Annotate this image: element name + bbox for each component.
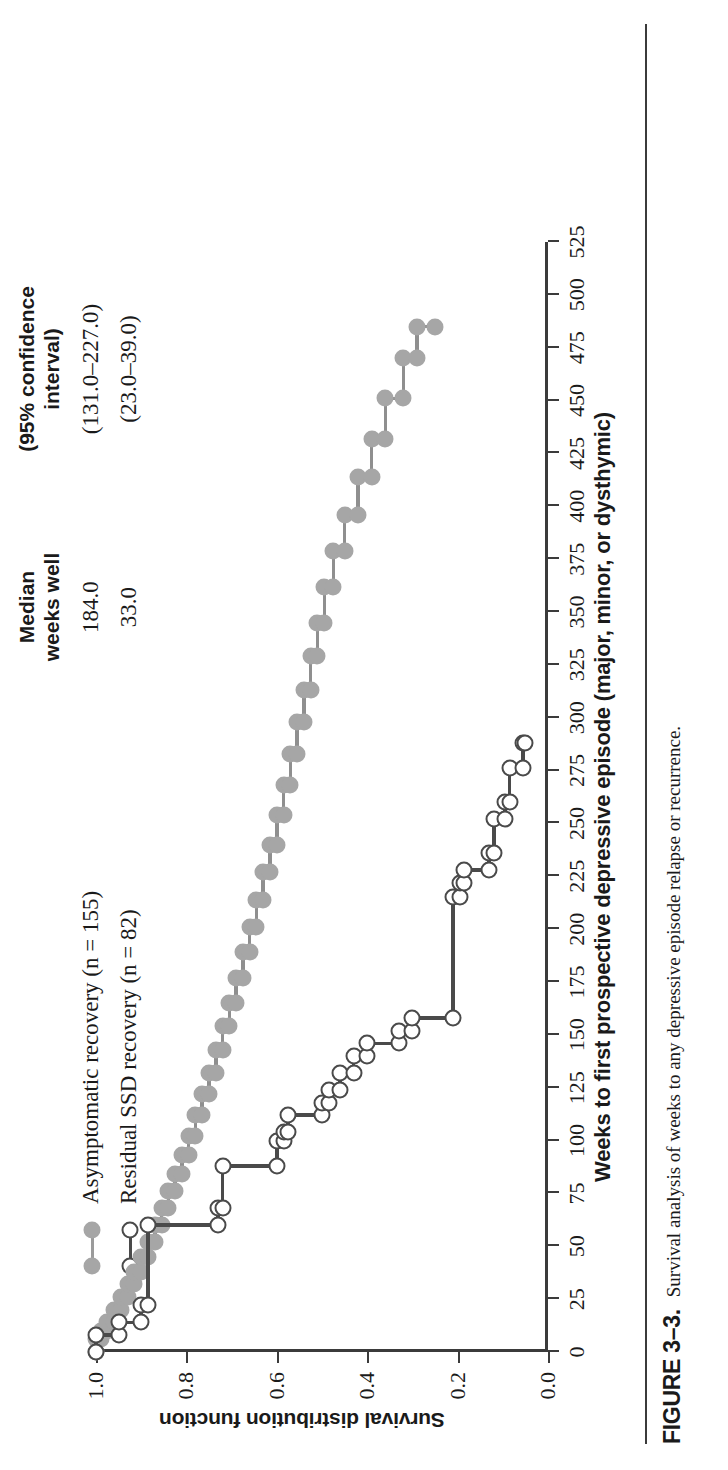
data-point — [336, 542, 353, 559]
legend-header-ci-line1: (95% confidence — [14, 234, 39, 504]
x-tick-label: 75 — [564, 1182, 590, 1204]
data-point — [363, 468, 380, 485]
x-axis-title: Weeks to first prospective depressive ep… — [590, 242, 616, 1352]
data-point — [207, 1064, 224, 1081]
x-tick — [548, 1139, 559, 1141]
data-point — [517, 735, 534, 752]
data-point — [255, 891, 272, 908]
x-tick-label: 500 — [564, 278, 590, 311]
data-point — [445, 1009, 462, 1026]
x-tick-label: 225 — [564, 860, 590, 893]
data-point — [167, 1183, 184, 1200]
x-axis-line — [545, 242, 548, 1352]
x-tick — [548, 1297, 559, 1299]
y-tick-label: 1.0 — [83, 1372, 109, 1400]
data-point — [427, 318, 444, 335]
data-point — [133, 1314, 150, 1331]
y-tick-label: 0.8 — [173, 1372, 199, 1400]
figure-caption: FIGURE 3–3.Survival analysis of weeks to… — [660, 24, 686, 1444]
data-point — [395, 390, 412, 407]
x-tick-label: 250 — [564, 807, 590, 840]
data-point — [160, 1200, 177, 1217]
x-tick — [548, 293, 559, 295]
y-tick-label: 0.6 — [264, 1372, 290, 1400]
data-point — [316, 614, 333, 631]
data-point — [350, 506, 367, 523]
x-tick — [548, 610, 559, 612]
data-point — [408, 350, 425, 367]
x-tick-label: 450 — [564, 384, 590, 417]
data-point — [359, 1035, 376, 1052]
y-axis-line — [96, 1349, 548, 1352]
y-tick-label: 0.2 — [445, 1372, 471, 1400]
x-tick — [548, 504, 559, 506]
x-tick — [548, 1244, 559, 1246]
legend-header-median-line1: Median — [14, 532, 39, 682]
x-tick-label: 0 — [564, 1347, 590, 1358]
y-tick — [367, 1352, 369, 1363]
x-tick-label: 325 — [564, 648, 590, 681]
data-point — [201, 1086, 218, 1103]
data-point — [404, 1009, 421, 1026]
data-point — [268, 836, 285, 853]
data-point — [194, 1107, 211, 1124]
x-tick-label: 300 — [564, 701, 590, 734]
x-tick — [548, 980, 559, 982]
x-tick-label: 350 — [564, 596, 590, 629]
data-point — [88, 1327, 105, 1344]
data-point — [275, 806, 292, 823]
data-point — [248, 919, 265, 936]
x-tick-label: 100 — [564, 1124, 590, 1157]
y-tick — [277, 1352, 279, 1363]
x-tick-label: 525 — [564, 226, 590, 259]
data-point — [345, 1064, 362, 1081]
data-point — [515, 760, 532, 777]
data-point — [280, 1107, 297, 1124]
data-point — [309, 648, 326, 665]
data-point — [332, 1081, 349, 1098]
x-tick — [548, 557, 559, 559]
x-tick-label: 200 — [564, 913, 590, 946]
data-point — [280, 1124, 297, 1141]
legend-header-row: Median weeks well (95% confidence interv… — [14, 234, 76, 1274]
data-point — [214, 1157, 231, 1174]
data-point — [456, 861, 473, 878]
data-point — [241, 944, 258, 961]
x-tick-label: 400 — [564, 490, 590, 523]
x-tick-label: 375 — [564, 543, 590, 576]
data-point — [325, 578, 342, 595]
data-point — [451, 889, 468, 906]
data-point — [501, 794, 518, 811]
data-point — [214, 1200, 231, 1217]
data-point — [497, 811, 514, 828]
data-point — [282, 777, 299, 794]
data-point — [88, 1344, 105, 1361]
legend-header-ci: (95% confidence interval) — [14, 234, 64, 504]
data-point — [377, 390, 394, 407]
data-point — [228, 995, 245, 1012]
legend-header-median: Median weeks well — [14, 532, 64, 682]
x-tick-label: 50 — [564, 1235, 590, 1257]
series-segment — [148, 1223, 218, 1227]
y-tick-label: 0.4 — [354, 1372, 380, 1400]
data-point — [268, 1157, 285, 1174]
y-tick — [186, 1352, 188, 1363]
data-point — [210, 1217, 227, 1234]
x-tick — [548, 346, 559, 348]
x-tick — [548, 769, 559, 771]
x-tick — [548, 716, 559, 718]
x-tick — [548, 1191, 559, 1193]
caption-divider — [645, 24, 647, 1444]
x-tick — [548, 240, 559, 242]
x-tick — [548, 451, 559, 453]
data-point — [481, 861, 498, 878]
data-point — [173, 1166, 190, 1183]
x-tick — [548, 1033, 559, 1035]
data-point — [214, 1041, 231, 1058]
figure-page: Median weeks well (95% confidence interv… — [0, 0, 728, 1470]
y-axis-title: Survival distribution function — [76, 1408, 528, 1432]
data-point — [408, 318, 425, 335]
data-point — [187, 1128, 204, 1145]
data-point — [221, 1018, 238, 1035]
data-point — [234, 969, 251, 986]
